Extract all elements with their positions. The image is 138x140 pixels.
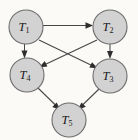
edge-line-T1-T3 <box>39 40 94 67</box>
node-label-sub-T5: 5 <box>68 119 72 128</box>
node-label-sub-T3: 3 <box>109 75 113 84</box>
graph-canvas: T1 T2 T4 T3 <box>0 0 138 140</box>
edge-line-T4-T5 <box>38 88 57 107</box>
edge-T3-T5 <box>78 89 100 110</box>
arrow-head-T2-T3 <box>107 51 113 59</box>
arrow-head-T1-T4 <box>22 51 28 59</box>
node-T4[interactable]: T4 <box>10 58 44 92</box>
node-T2[interactable]: T2 <box>93 10 127 44</box>
edge-T1-T4 <box>22 44 28 59</box>
node-label-sub-T4: 4 <box>26 74 30 83</box>
node-T3[interactable]: T3 <box>93 59 127 93</box>
node-T1[interactable]: T1 <box>9 10 43 44</box>
edge-T4-T5 <box>38 88 61 110</box>
node-T5[interactable]: T5 <box>52 103 86 137</box>
node-label-sub-T1: 1 <box>25 26 29 35</box>
node-group: T1 T2 T4 T3 <box>9 10 127 137</box>
edge-T2-T3 <box>107 44 113 59</box>
edge-T1-T2 <box>43 22 93 28</box>
task-precedence-graph: T1 T2 T4 T3 <box>0 0 138 140</box>
node-label-sub-T2: 2 <box>109 26 113 35</box>
edge-line-T3-T5 <box>81 89 99 107</box>
edge-line-T2-T4 <box>43 40 97 66</box>
arrow-head-T1-T2 <box>86 22 94 28</box>
